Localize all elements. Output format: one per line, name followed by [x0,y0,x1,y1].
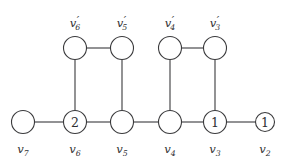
graph-node[interactable]: 2 [64,111,87,134]
edges-group [35,48,256,122]
graph-node[interactable] [111,111,134,134]
graph-node[interactable] [159,111,182,134]
graph-node[interactable] [159,37,182,60]
vertex-label: v′5 [117,14,127,32]
vertex-label-subscript: 2 [265,149,271,158]
vertex-label: v4 [164,142,176,158]
graph-node[interactable] [111,37,134,60]
vertex-label-subscript: 6 [75,23,80,32]
graph-canvas: 211 v7v6v5v4v3v2v′6v′5v′4v′3 [0,0,297,165]
node-circle[interactable] [204,37,227,60]
vertex-label: v3 [209,142,221,158]
vertex-label-subscript: 5 [122,23,127,32]
node-value-text: 2 [71,115,79,130]
node-circle[interactable] [12,111,35,134]
node-circle[interactable] [111,111,134,134]
graph-node[interactable] [64,37,87,60]
node-value-text: 1 [211,115,219,130]
node-circle[interactable] [159,37,182,60]
vertex-label-subscript: 4 [170,149,176,158]
nodes-group: 211 [12,37,275,134]
vertex-label-subscript: 5 [123,149,128,158]
graph-node[interactable]: 1 [256,113,275,132]
node-circle[interactable] [159,111,182,134]
vertex-label: v6 [69,142,81,158]
vertex-label-subscript: 4 [169,23,175,32]
node-circle[interactable] [64,37,87,60]
vertex-label: v2 [259,142,271,158]
graph-node[interactable] [204,37,227,60]
vertex-label: v′6 [70,14,80,32]
vertex-label: v5 [116,142,128,158]
node-circle[interactable] [111,37,134,60]
graph-diagram: 211 v7v6v5v4v3v2v′6v′5v′4v′3 [0,0,297,165]
graph-node[interactable]: 1 [204,111,227,134]
vertex-label: v′3 [210,14,220,32]
vertex-label-subscript: 6 [76,149,81,158]
vertex-labels-group: v7v6v5v4v3v2v′6v′5v′4v′3 [17,14,271,158]
vertex-label-subscript: 7 [24,149,29,158]
vertex-label: v7 [17,142,29,158]
vertex-label-subscript: 3 [215,23,220,32]
node-value-text: 1 [261,115,269,130]
vertex-label-subscript: 3 [216,149,221,158]
vertex-label: v′4 [165,14,175,32]
graph-node[interactable] [12,111,35,134]
